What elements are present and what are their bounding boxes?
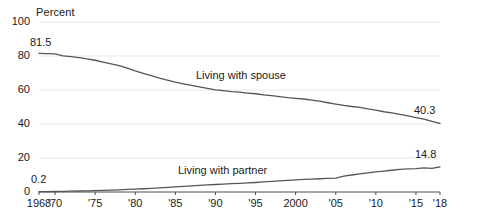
series-label-living-with-partner: Living with partner bbox=[178, 164, 267, 176]
value-label-spouse-end: 40.3 bbox=[414, 104, 435, 116]
x-axis-tick-95: '95 bbox=[248, 197, 262, 209]
chart-container: Percent 020406080100 1968'70'75'80'85'90… bbox=[0, 0, 477, 217]
series-line-living-with-spouse bbox=[39, 53, 440, 123]
x-axis-tick-90: '90 bbox=[208, 197, 222, 209]
y-axis-tick-20: 20 bbox=[0, 151, 30, 163]
chart-plot-area bbox=[0, 0, 477, 217]
y-axis-tick-60: 60 bbox=[0, 83, 30, 95]
x-axis-tick-70: '70 bbox=[48, 197, 62, 209]
y-axis-tick-80: 80 bbox=[0, 49, 30, 61]
series-label-living-with-spouse: Living with spouse bbox=[196, 69, 286, 81]
x-axis-tick-80: '80 bbox=[128, 197, 142, 209]
value-label-spouse-start: 81.5 bbox=[30, 36, 51, 48]
x-axis-tick-18: '18 bbox=[433, 197, 447, 209]
y-axis-tick-100: 100 bbox=[0, 15, 30, 27]
x-axis-tick-05: '05 bbox=[329, 197, 343, 209]
y-axis-tick-40: 40 bbox=[0, 117, 30, 129]
value-label-partner-end: 14.8 bbox=[415, 148, 436, 160]
value-label-partner-start: 0.2 bbox=[31, 173, 46, 185]
x-axis-tick-10: '10 bbox=[369, 197, 383, 209]
x-axis-tick-85: '85 bbox=[168, 197, 182, 209]
x-axis-tick-75: '75 bbox=[88, 197, 102, 209]
y-axis-tick-0: 0 bbox=[0, 185, 30, 197]
x-axis-tick-2000: 2000 bbox=[283, 197, 307, 209]
x-axis-tick-15: '15 bbox=[409, 197, 423, 209]
